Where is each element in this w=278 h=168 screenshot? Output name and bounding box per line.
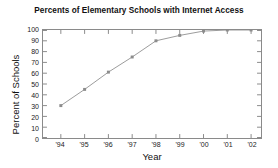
y-tick-label: 40: [18, 92, 39, 99]
data-point-marker: [250, 30, 253, 31]
x-tick-label: '97: [127, 141, 136, 149]
data-point-marker: [154, 39, 157, 42]
y-tick-label: 90: [18, 37, 39, 44]
y-tick-label: 80: [18, 48, 39, 55]
x-tick-label: '96: [103, 141, 112, 149]
data-point-marker: [226, 30, 229, 31]
y-tick-label: 60: [18, 70, 39, 77]
chart-figure: Percents of Elementary Schools with Inte…: [0, 0, 278, 168]
x-axis-label: Year: [42, 151, 262, 162]
y-axis-label-wrapper: Percent of Schools: [0, 29, 16, 139]
data-markers: [59, 30, 252, 107]
x-tick-label: '02: [247, 141, 256, 149]
plot-svg: [43, 30, 261, 138]
y-tick-label: 0: [18, 136, 39, 143]
chart-title: Percents of Elementary Schools with Inte…: [0, 6, 278, 15]
y-axis-tick-labels: 0102030405060708090100: [18, 29, 39, 139]
data-point-marker: [107, 71, 110, 74]
data-point-marker: [202, 30, 205, 33]
y-tick-label: 50: [18, 81, 39, 88]
y-tick-label: 70: [18, 59, 39, 66]
x-tick-label: '99: [175, 141, 184, 149]
data-point-marker: [59, 104, 62, 107]
y-tick-label: 20: [18, 114, 39, 121]
data-point-marker: [83, 88, 86, 91]
data-point-marker: [131, 56, 134, 59]
x-tick-label: '01: [223, 141, 232, 149]
x-tick-label: '98: [151, 141, 160, 149]
y-tick-label: 10: [18, 125, 39, 132]
plot-area: [42, 29, 262, 139]
y-tick-label: 100: [18, 26, 39, 33]
data-point-marker: [178, 34, 181, 37]
x-tick-label: '95: [79, 141, 88, 149]
x-tick-label: '00: [199, 141, 208, 149]
axis-ticks: [43, 30, 261, 138]
y-tick-label: 30: [18, 103, 39, 110]
x-tick-label: '94: [55, 141, 64, 149]
